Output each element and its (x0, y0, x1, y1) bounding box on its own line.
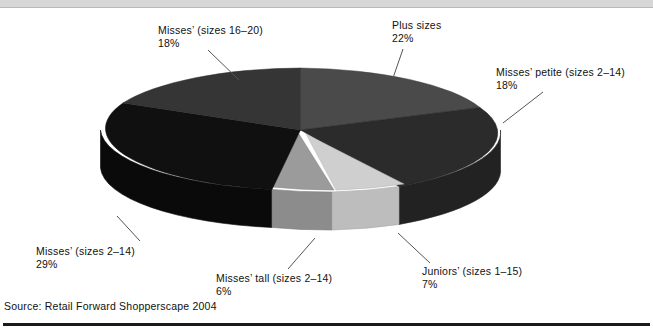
slice-label-name: Misses’ petite (sizes 2–14) (496, 66, 625, 78)
slice-label-name: Plus sizes (392, 19, 441, 31)
leader-line-misses-2-14 (117, 216, 140, 241)
pie-top-face (105, 68, 497, 190)
slice-side-misses-tall (272, 190, 332, 231)
slice-label-name: Misses’ (sizes 2–14) (36, 245, 135, 257)
bottom-rule (3, 323, 650, 326)
leader-line-juniors (398, 233, 430, 263)
slice-label-juniors: Juniors’ (sizes 1–15) 7% (422, 265, 522, 291)
slice-label-plus-sizes: Plus sizes 22% (392, 19, 441, 45)
slice-label-misses-2-14: Misses’ (sizes 2–14) 29% (36, 245, 135, 271)
slice-side-juniors (332, 187, 399, 231)
slice-label-percent: 29% (36, 258, 135, 271)
slice-label-percent: 22% (392, 32, 441, 45)
slice-label-name: Juniors’ (sizes 1–15) (422, 265, 522, 277)
pie-chart-figure: Misses’ (sizes 16–20) 18% Plus sizes 22%… (0, 0, 653, 332)
slice-label-percent: 18% (496, 79, 625, 92)
slice-label-name: Misses’ tall (sizes 2–14) (216, 272, 332, 284)
slice-label-misses-tall: Misses’ tall (sizes 2–14) 6% (216, 272, 332, 298)
slice-label-misses-16-20: Misses’ (sizes 16–20) 18% (158, 24, 263, 50)
leader-line-misses-tall (288, 238, 315, 269)
slice-label-name: Misses’ (sizes 16–20) (158, 24, 263, 36)
slice-label-percent: 7% (422, 278, 522, 291)
slice-label-misses-petite: Misses’ petite (sizes 2–14) 18% (496, 66, 625, 92)
source-note: Source: Retail Forward Shopperscape 2004 (4, 300, 217, 312)
slice-label-percent: 6% (216, 285, 332, 298)
leader-line-plus-sizes (393, 49, 403, 78)
leader-line-misses-petite (503, 92, 543, 123)
slice-label-percent: 18% (158, 37, 263, 50)
